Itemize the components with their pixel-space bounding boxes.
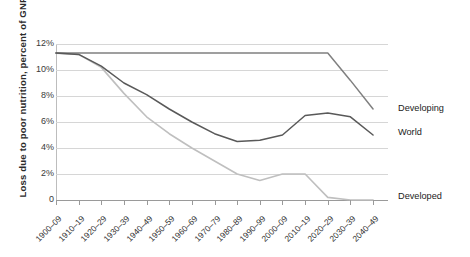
legend-label-world: World (398, 127, 422, 137)
legend-label-developed: Developed (398, 191, 442, 201)
chart-figure: Loss due to poor nutrition, percent of G… (0, 0, 470, 257)
legend-label-developing: Developing (398, 103, 444, 113)
